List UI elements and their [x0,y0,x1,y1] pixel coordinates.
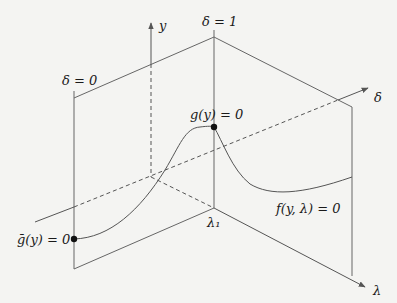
point-g-label: g(y) = 0 [190,107,243,122]
plane-delta-0 [74,37,214,269]
bifurcation-diagram: y δ λ δ = 0 δ = 1 ḡ(y) = 0 g(y) = 0 f(y,… [0,0,397,303]
delta-axis-label: δ [374,90,382,105]
plane-delta-1 [214,30,352,276]
point-gbar [71,236,77,242]
point-g [211,124,217,130]
y-axis-label: y [158,18,167,33]
plane-delta-1-label: δ = 1 [202,14,237,29]
plane-delta-0-label: δ = 0 [62,73,97,88]
lambda-axis [151,177,365,287]
curve-label: f(y, λ) = 0 [275,201,341,216]
lambda1-tick-label: λ₁ [206,215,220,230]
lambda-axis-label: λ [372,283,381,298]
point-gbar-label: ḡ(y) = 0 [17,232,70,247]
